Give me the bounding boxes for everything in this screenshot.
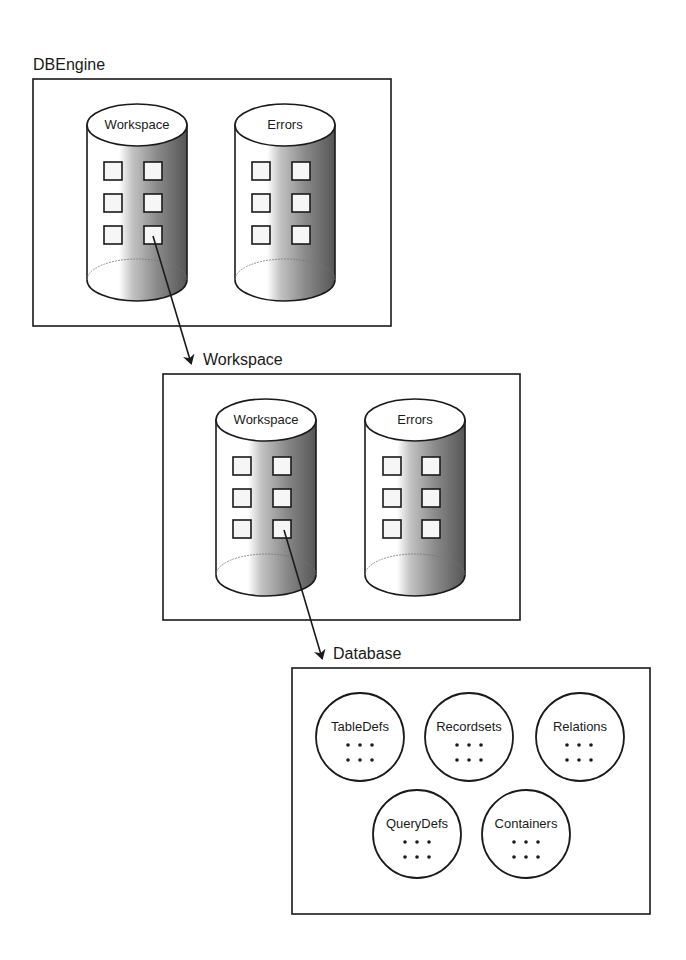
dbengine-errors-label: Errors [235,117,335,132]
dbengine-workspace-label: Workspace [87,117,187,132]
recordsets-collection-circle[interactable] [425,693,513,781]
relations-collection-circle[interactable] [536,693,624,781]
recordsets-label: Recordsets [425,719,513,734]
tabledefs-collection-circle[interactable] [316,693,404,781]
object-model-diagram [0,0,686,960]
relations-label: Relations [536,719,624,734]
workspace-errors-cylinder[interactable] [365,399,465,596]
dbengine-workspace-cylinder[interactable] [87,104,187,301]
querydefs-collection-circle[interactable] [373,790,461,878]
containers-collection-circle[interactable] [482,790,570,878]
selected-database-member [273,520,291,538]
dbengine-errors-cylinder[interactable] [235,104,335,301]
workspace-errors-label: Errors [365,412,465,427]
containers-label: Containers [482,816,570,831]
querydefs-label: QueryDefs [373,816,461,831]
tabledefs-label: TableDefs [316,719,404,734]
workspace-workspace-label: Workspace [216,412,316,427]
workspace-workspace-cylinder[interactable] [216,399,316,596]
selected-workspace-member [144,226,162,244]
